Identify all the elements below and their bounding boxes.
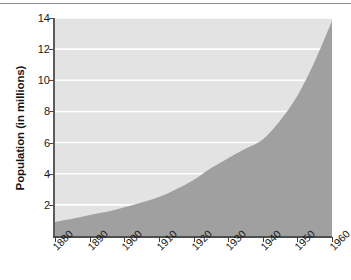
plot-area (55, 18, 332, 236)
area-series-svg (55, 18, 332, 236)
y-tick-mark (49, 49, 54, 50)
y-tick-label-10: 10 (4, 74, 50, 86)
y-tick-mark (49, 111, 54, 112)
y-tick-mark (49, 18, 54, 19)
y-tick-mark (49, 205, 54, 206)
y-tick-label-4: 4 (4, 168, 50, 180)
y-tick-mark (49, 174, 54, 175)
population-area-chart: Population (in millions) 2468101214 1880… (0, 0, 351, 280)
y-tick-mark (49, 143, 54, 144)
y-tick-label-14: 14 (4, 12, 50, 24)
y-tick-label-2: 2 (4, 199, 50, 211)
y-tick-mark (49, 80, 54, 81)
y-tick-label-6: 6 (4, 137, 50, 149)
y-tick-label-12: 12 (4, 43, 50, 55)
y-tick-label-8: 8 (4, 105, 50, 117)
population-area-path (55, 21, 332, 236)
y-axis-tick-group: 2468101214 (0, 0, 50, 280)
